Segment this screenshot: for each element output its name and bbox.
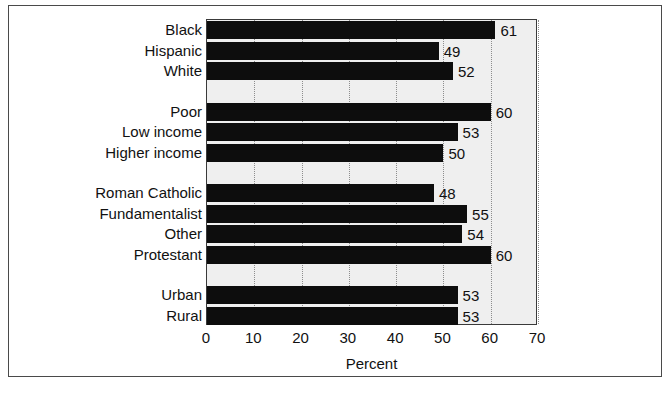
chart-figure: BlackHispanicWhitePoorLow incomeHigher i… <box>0 0 671 393</box>
bar-value-label: 49 <box>444 44 461 59</box>
category-label: Other <box>164 226 202 241</box>
bar-value-label: 60 <box>496 105 513 120</box>
bar <box>207 205 467 223</box>
bar <box>207 103 491 121</box>
bar-value-label: 55 <box>472 207 489 222</box>
bar-value-label: 53 <box>463 125 480 140</box>
bar <box>207 225 462 243</box>
horizontal-bar-chart: BlackHispanicWhitePoorLow incomeHigher i… <box>0 0 671 393</box>
category-label: Low income <box>122 124 202 139</box>
gridline-70 <box>538 20 539 324</box>
category-label: Fundamentalist <box>99 206 202 221</box>
category-label: Urban <box>161 287 202 302</box>
category-label: Protestant <box>134 247 202 262</box>
x-axis-title: Percent <box>206 356 537 371</box>
bar <box>207 62 453 80</box>
bar <box>207 286 458 304</box>
bar-value-label: 53 <box>463 288 480 303</box>
x-tick-0: 0 <box>202 330 210 345</box>
bars-layer: 614952605350485554605353 <box>207 20 536 324</box>
bar <box>207 246 491 264</box>
bar-value-label: 53 <box>463 309 480 324</box>
bar <box>207 21 495 39</box>
bar <box>207 184 434 202</box>
category-axis-labels: BlackHispanicWhitePoorLow incomeHigher i… <box>0 19 202 325</box>
x-tick-70: 70 <box>529 330 546 345</box>
category-label: White <box>164 63 202 78</box>
bar <box>207 42 439 60</box>
bar-value-label: 52 <box>458 64 475 79</box>
category-label: Roman Catholic <box>95 185 202 200</box>
category-label: Black <box>165 22 202 37</box>
bar <box>207 123 458 141</box>
bar-value-label: 61 <box>500 23 517 38</box>
bar-value-label: 54 <box>467 227 484 242</box>
plot-area: 614952605350485554605353 <box>206 19 537 325</box>
x-axis-tick-labels: 010203040506070 <box>206 330 537 350</box>
category-label: Higher income <box>105 145 202 160</box>
x-tick-20: 20 <box>292 330 309 345</box>
category-label: Hispanic <box>144 43 202 58</box>
bar-value-label: 60 <box>496 248 513 263</box>
bar <box>207 144 443 162</box>
x-tick-40: 40 <box>387 330 404 345</box>
category-label: Poor <box>170 104 202 119</box>
x-tick-10: 10 <box>245 330 262 345</box>
x-tick-30: 30 <box>340 330 357 345</box>
x-tick-50: 50 <box>434 330 451 345</box>
bar-value-label: 48 <box>439 186 456 201</box>
bar-value-label: 50 <box>448 146 465 161</box>
category-label: Rural <box>166 308 202 323</box>
bar <box>207 307 458 325</box>
x-tick-60: 60 <box>481 330 498 345</box>
